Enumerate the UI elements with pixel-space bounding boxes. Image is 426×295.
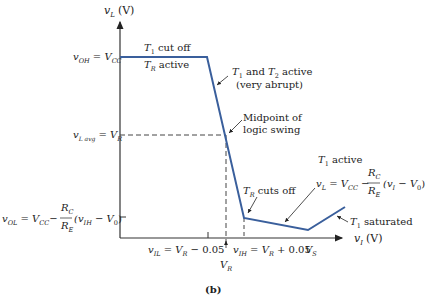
- svg-text:RE: RE: [367, 185, 381, 199]
- tr-active-label: TR active: [144, 59, 189, 73]
- svg-text:vOL = VCC−: vOL = VCC−: [2, 213, 58, 227]
- svg-text:RE: RE: [60, 220, 74, 234]
- t1t2-active-label: T1 and T2 active: [232, 66, 312, 80]
- arrow-midpoint: [229, 120, 242, 133]
- arrow-t1-saturated: [337, 216, 348, 222]
- x-axis-label: vI(V): [354, 232, 383, 247]
- svg-text:RC: RC: [60, 202, 74, 216]
- vl-equation: vL = VCC − RC RE (vI − V0): [316, 167, 425, 199]
- vlavg-label: vL avg = VR: [73, 129, 122, 143]
- vol-label: vOL = VCC− RC RE (vIH − V0): [2, 202, 122, 234]
- vil-tick-label: vIL = VR − 0.05: [148, 244, 224, 258]
- transfer-characteristic-diagram: vL(V) vI(V) vOH = VCC vL avg = VR vOL = …: [0, 0, 426, 295]
- vr-tick-label: VR: [220, 259, 232, 273]
- midpoint-label-line2: logic swing: [243, 124, 301, 135]
- y-axis-label: vL(V): [104, 4, 134, 19]
- transfer-curve: [120, 57, 345, 230]
- vs-tick-label: VS: [305, 244, 317, 258]
- voh-label: vOH = VCC: [73, 51, 122, 65]
- svg-text:(vIH − V0): (vIH − V0): [74, 213, 122, 227]
- vih-tick-label: vIH = VR + 0.05: [233, 244, 311, 258]
- very-abrupt-label: (very abrupt): [236, 79, 303, 90]
- svg-text:(vI − V0): (vI − V0): [383, 178, 425, 192]
- t1-cutoff-label: T1 cut off: [144, 42, 191, 56]
- svg-text:vL = VCC −: vL = VCC −: [316, 178, 369, 192]
- figure-caption: (b): [205, 284, 221, 295]
- t1-active-label: T1 active: [318, 154, 362, 168]
- midpoint-label-line1: Midpoint of: [243, 112, 303, 123]
- arrow-tr-cutsoff: [248, 197, 257, 213]
- tr-cutsoff-label: TR cuts off: [243, 185, 296, 199]
- arrow-t1t2: [217, 76, 228, 85]
- t1-saturated-label: T1 saturated: [350, 216, 413, 230]
